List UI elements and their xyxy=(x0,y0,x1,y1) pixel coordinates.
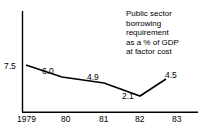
x-tick-82: 82 xyxy=(135,115,144,124)
point-label-82: 2.1 xyxy=(122,92,134,101)
point-label-81: 4.9 xyxy=(87,73,99,82)
x-tick-80: 80 xyxy=(61,115,70,124)
point-label-1979: 7.5 xyxy=(4,62,16,71)
chart-figure: Public sector borrowing requirement as a… xyxy=(0,0,205,137)
x-tick-83: 83 xyxy=(172,115,181,124)
point-label-83: 4.5 xyxy=(165,71,177,80)
point-label-80: 6.0 xyxy=(42,67,54,76)
x-tick-81: 81 xyxy=(99,115,108,124)
x-tick-1979: 1979 xyxy=(17,115,36,124)
axes xyxy=(22,11,198,112)
